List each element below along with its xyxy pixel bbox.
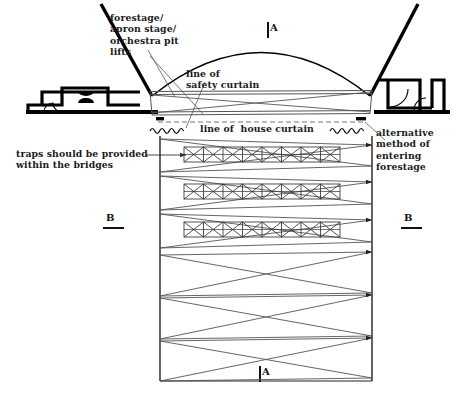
diagram-svg: [0, 0, 460, 411]
section-mark-a-top: A: [270, 22, 278, 33]
label-alternative-entry: alternative method of entering forestage: [376, 127, 434, 173]
column-icon: [78, 91, 94, 103]
stage-floor-line: [152, 111, 370, 113]
label-safety-curtain: line of safety curtain: [186, 68, 259, 91]
section-mark-b-right: B: [404, 212, 412, 223]
leader-traps-arrow: [180, 153, 186, 157]
section-mark-b-left: B: [106, 212, 114, 223]
label-traps: traps should be provided within the brid…: [16, 148, 148, 171]
right-auditorium-structure: [378, 80, 444, 112]
safety-curtain-line-2: [150, 94, 372, 95]
house-curtain-bunch-left: [150, 129, 184, 134]
right-floor-slab: [374, 110, 450, 114]
safety-curtain-line: [150, 91, 372, 92]
label-house-curtain: line of house curtain: [200, 123, 314, 134]
label-forestage: forestage/ apron stage/ orchestra pit li…: [110, 12, 179, 58]
plan-lift-band-5: [160, 295, 372, 339]
curtain-track-right: [356, 117, 366, 120]
auditorium-dome-arc: [152, 53, 370, 97]
curtain-track-left: [156, 117, 164, 120]
right-door-swing-icon-1: [390, 89, 408, 107]
plan-lift-band-4: [160, 252, 372, 296]
left-floor-slab: [26, 110, 158, 114]
diagram-canvas: forestage/ apron stage/ orchestra pit li…: [0, 0, 460, 411]
house-curtain-bunch-right: [330, 129, 364, 134]
section-mark-a-bottom: A: [262, 366, 270, 377]
stage-floor-line-2: [152, 114, 370, 116]
plan-bridge-1: [184, 147, 340, 162]
right-proscenium-wall: [370, 4, 418, 96]
plan-view: [146, 136, 372, 381]
